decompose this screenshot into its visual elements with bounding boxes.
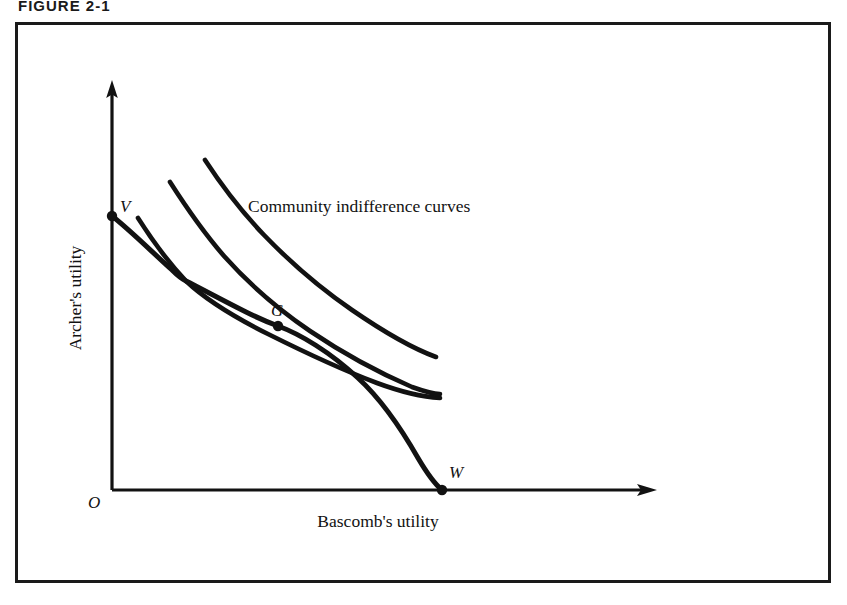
marked-points-group bbox=[107, 211, 447, 495]
point-w-marker bbox=[437, 485, 447, 495]
economics-diagram: V G W O Community indifference curves Ba… bbox=[0, 0, 847, 605]
figure-border bbox=[17, 24, 830, 582]
point-g-label: G bbox=[271, 301, 283, 320]
utility-possibility-frontier bbox=[112, 216, 442, 490]
axes-group bbox=[106, 80, 657, 496]
point-g-marker bbox=[273, 321, 283, 331]
x-axis-title: Bascomb's utility bbox=[317, 511, 439, 531]
indifference-curve-3 bbox=[205, 160, 436, 357]
indifference-curve-1 bbox=[138, 218, 440, 398]
point-v-marker bbox=[107, 211, 117, 221]
point-v-label: V bbox=[120, 197, 133, 216]
community-indifference-curves-label: Community indifference curves bbox=[248, 196, 470, 216]
point-w-label: W bbox=[449, 463, 465, 482]
utility-possibility-frontier-group bbox=[112, 216, 442, 490]
y-axis-title: Archer's utility bbox=[65, 245, 85, 350]
origin-label: O bbox=[88, 493, 100, 512]
figure-container: FIGURE 2-1 V G W O Comm bbox=[0, 0, 847, 605]
